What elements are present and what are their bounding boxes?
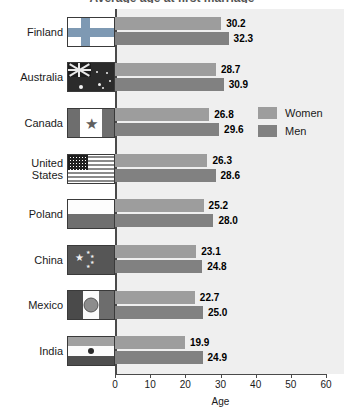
bar-value-label: 26.8 bbox=[214, 108, 233, 121]
bar-value-label: 23.1 bbox=[201, 245, 220, 258]
women-swatch-icon bbox=[258, 107, 277, 119]
x-tick bbox=[150, 374, 151, 378]
bar-value-label: 25.2 bbox=[209, 199, 228, 212]
flag-canada-icon: ★ bbox=[67, 108, 115, 138]
legend: Women Men bbox=[258, 104, 342, 140]
bar-value-label: 24.8 bbox=[207, 260, 226, 273]
bar-value-label: 30.9 bbox=[229, 78, 248, 91]
flag-mexico-icon bbox=[67, 290, 115, 320]
x-tick bbox=[256, 374, 257, 378]
x-tick bbox=[115, 374, 116, 378]
bar-men bbox=[115, 169, 216, 182]
bar-men bbox=[115, 123, 219, 136]
category-row: India bbox=[0, 328, 115, 374]
legend-label-men: Men bbox=[285, 125, 306, 137]
bar-value-label: 29.6 bbox=[224, 123, 243, 136]
bar-women bbox=[115, 291, 195, 304]
flag-united-states-icon bbox=[67, 154, 115, 184]
country-label: Australia bbox=[20, 71, 67, 83]
legend-item-women[interactable]: Women bbox=[258, 104, 342, 122]
legend-label-women: Women bbox=[285, 107, 323, 119]
country-label: China bbox=[34, 254, 67, 266]
category-row: Canada★ bbox=[0, 100, 115, 146]
bar-men bbox=[115, 351, 203, 364]
bar-women bbox=[115, 154, 207, 167]
flag-finland-icon bbox=[67, 17, 115, 47]
country-label: India bbox=[39, 345, 67, 357]
country-label: Mexico bbox=[28, 299, 67, 311]
bar-value-label: 25.0 bbox=[208, 306, 227, 319]
country-label: Finland bbox=[27, 26, 67, 38]
x-tick bbox=[185, 374, 186, 378]
men-swatch-icon bbox=[258, 125, 277, 137]
country-label: United States bbox=[31, 157, 67, 181]
bar-value-label: 19.9 bbox=[190, 336, 209, 349]
category-row: Australia bbox=[0, 55, 115, 101]
bar-women bbox=[115, 108, 209, 121]
x-tick-label: 20 bbox=[173, 379, 197, 390]
bar-men bbox=[115, 306, 203, 319]
bar-women bbox=[115, 336, 185, 349]
category-axis-labels: FinlandAustraliaCanada★United StatesPola… bbox=[0, 9, 115, 374]
bar-women bbox=[115, 17, 221, 30]
flag-australia-icon bbox=[67, 62, 115, 92]
flag-poland-icon bbox=[67, 199, 115, 229]
x-tick-label: 40 bbox=[244, 379, 268, 390]
flag-india-icon bbox=[67, 336, 115, 366]
bar-women bbox=[115, 199, 204, 212]
x-tick-label: 10 bbox=[138, 379, 162, 390]
category-row: Poland bbox=[0, 191, 115, 237]
x-tick bbox=[291, 374, 292, 378]
bar-value-label: 22.7 bbox=[200, 291, 219, 304]
country-label: Canada bbox=[24, 117, 67, 129]
bar-value-label: 26.3 bbox=[212, 154, 231, 167]
bar-women bbox=[115, 63, 216, 76]
bar-value-label: 28.0 bbox=[218, 214, 237, 227]
country-label: Poland bbox=[29, 208, 67, 220]
bar-chart: Average age at first marriage 0102030405… bbox=[0, 0, 344, 417]
category-row: China★★★★★ bbox=[0, 237, 115, 283]
bar-men bbox=[115, 260, 202, 273]
bar-value-label: 32.3 bbox=[234, 32, 253, 45]
chart-title: Average age at first marriage bbox=[0, 0, 344, 3]
bar-value-label: 28.6 bbox=[221, 169, 240, 182]
bar-men bbox=[115, 214, 213, 227]
category-row: Mexico bbox=[0, 283, 115, 329]
x-tick bbox=[221, 374, 222, 378]
bar-men bbox=[115, 78, 224, 91]
legend-item-men[interactable]: Men bbox=[258, 122, 342, 140]
bar-women bbox=[115, 245, 196, 258]
category-row: Finland bbox=[0, 9, 115, 55]
x-tick-label: 30 bbox=[209, 379, 233, 390]
x-axis-title: Age bbox=[115, 396, 326, 407]
bar-value-label: 24.9 bbox=[208, 351, 227, 364]
x-tick-label: 60 bbox=[314, 379, 338, 390]
bar-men bbox=[115, 32, 229, 45]
bar-value-label: 28.7 bbox=[221, 63, 240, 76]
bar-value-label: 30.2 bbox=[226, 17, 245, 30]
x-tick-label: 50 bbox=[279, 379, 303, 390]
flag-china-icon: ★★★★★ bbox=[67, 245, 115, 275]
x-tick bbox=[326, 374, 327, 378]
x-tick-label: 0 bbox=[103, 379, 127, 390]
category-row: United States bbox=[0, 146, 115, 192]
